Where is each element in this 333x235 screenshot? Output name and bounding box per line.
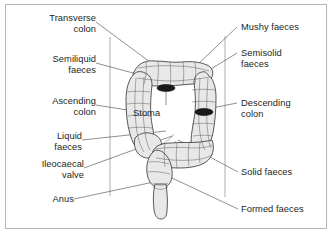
label-liquid-faeces: Liquid faeces — [6, 131, 82, 152]
colon-illustration — [126, 61, 216, 219]
stoma-marker-transverse — [157, 84, 175, 91]
label-ascending-colon: Ascending colon — [6, 96, 96, 117]
stoma-marker-descending — [195, 108, 213, 115]
label-stoma: Stoma — [133, 108, 179, 119]
label-semisolid-faeces: Semisolid faeces — [241, 48, 329, 69]
label-solid-faeces: Solid faeces — [241, 167, 329, 178]
label-descending-colon: Descending colon — [241, 98, 329, 119]
label-mushy-faeces: Mushy faeces — [241, 22, 329, 33]
label-formed-faeces: Formed faeces — [241, 204, 331, 215]
label-semiliquid-faeces: Semiliquid faeces — [6, 54, 96, 75]
label-transverse-colon: Transverse colon — [6, 13, 96, 34]
colon-diagram-figure: Transverse colon Semiliquid faeces Ascen… — [0, 0, 333, 235]
label-ileocaecal-valve: Ileocaecal valve — [6, 159, 84, 180]
label-anus: Anus — [6, 194, 74, 205]
